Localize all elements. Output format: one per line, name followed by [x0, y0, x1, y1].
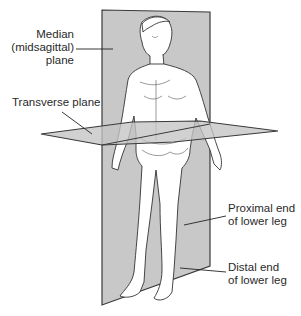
median-label-line2: (midsagittal)	[6, 41, 74, 54]
proximal-end-label: Proximal end of lower leg	[228, 202, 295, 228]
proximal-label-line1: Proximal end	[228, 202, 295, 215]
transverse-plane	[41, 121, 278, 145]
median-label-line1: Median	[6, 28, 74, 41]
distal-label-line1: Distal end	[228, 261, 287, 274]
proximal-label-line2: of lower leg	[228, 215, 295, 228]
distal-label-line2: of lower leg	[228, 274, 287, 287]
transverse-plane-label: Transverse plane	[12, 96, 100, 109]
median-plane-label: Median (midsagittal) plane	[6, 28, 74, 67]
transverse-label-text: Transverse plane	[12, 96, 100, 108]
distal-end-label: Distal end of lower leg	[228, 261, 287, 287]
median-label-line3: plane	[6, 54, 74, 67]
